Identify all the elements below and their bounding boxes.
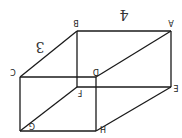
edge-FG — [20, 87, 77, 131]
measurement-b-c: 3 — [36, 39, 45, 55]
vertex-label-a: A — [168, 18, 174, 27]
edge-AD — [96, 31, 171, 77]
vertex-label-d: D — [93, 67, 99, 76]
edge-EH — [96, 87, 171, 131]
vertex-label-c: C — [10, 67, 16, 76]
vertex-label-h: H — [100, 124, 106, 133]
edge-BC — [20, 31, 77, 77]
vertex-label-e: E — [173, 83, 178, 92]
vertex-label-b: B — [73, 18, 79, 27]
vertex-label-g: G — [29, 121, 35, 130]
measurement-a-b: 4 — [119, 7, 128, 23]
vertex-labels: ABCDEFGH — [10, 18, 179, 133]
vertex-label-f: F — [77, 88, 82, 97]
prism-diagram: ABCDEFGH 43 — [0, 0, 182, 138]
